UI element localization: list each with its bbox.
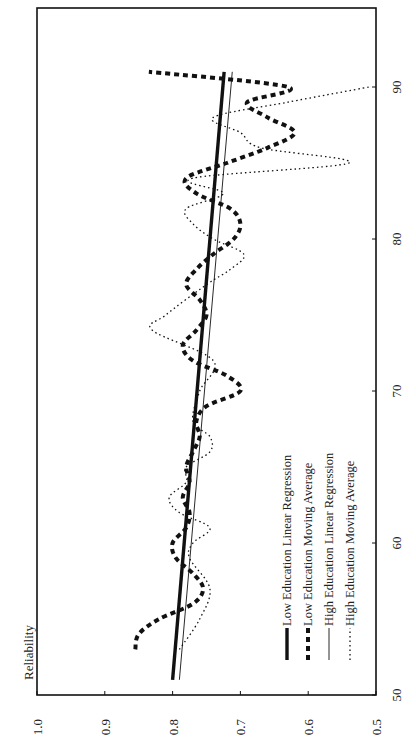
x-tick-label: 70 bbox=[389, 385, 404, 398]
legend-item-label: High Education Linear Regression bbox=[322, 452, 336, 626]
x-tick-label: 50 bbox=[389, 689, 404, 702]
x-tick-label: 80 bbox=[389, 233, 404, 246]
x-tick-label: 60 bbox=[389, 537, 404, 550]
legend-item-label: Low Education Moving Average bbox=[301, 462, 315, 626]
axis-ticks: 1.00.90.80.70.60.55060708090 bbox=[30, 81, 404, 736]
legend-item-label: Low Education Linear Regression bbox=[280, 454, 294, 626]
y-tick-label: 0.7 bbox=[233, 718, 248, 735]
chart-canvas: 1.00.90.80.70.60.55060708090 Reliability… bbox=[0, 0, 416, 744]
y-tick-label: 0.9 bbox=[98, 719, 113, 735]
y-tick-label: 0.5 bbox=[369, 719, 384, 735]
y-tick-label: 1.0 bbox=[30, 719, 45, 735]
x-tick-label: 90 bbox=[389, 81, 404, 94]
legend: Low Education Linear RegressionLow Educa… bbox=[280, 452, 357, 660]
y-axis-title: Reliability bbox=[21, 625, 36, 680]
legend-item-label: High Education Moving Average bbox=[343, 460, 357, 626]
y-tick-label: 0.8 bbox=[166, 719, 181, 735]
y-tick-label: 0.6 bbox=[301, 718, 316, 735]
series-low-education-moving-average bbox=[135, 72, 294, 650]
series-low-education-linear-regression bbox=[173, 72, 225, 680]
